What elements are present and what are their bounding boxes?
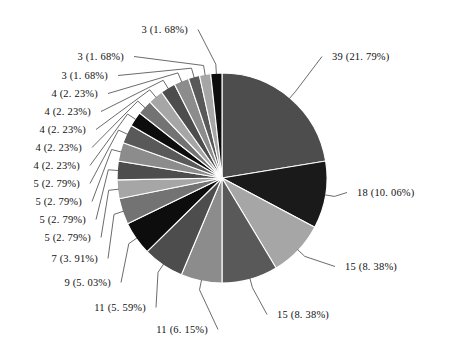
slice-label: 5 (2. 79%) xyxy=(33,178,80,190)
slice-label: 5 (2. 79%) xyxy=(44,232,91,244)
slice-label: 5 (2. 79%) xyxy=(35,196,82,208)
pie-slices-group xyxy=(117,73,327,283)
slice-label: 11 (6. 15%) xyxy=(156,324,208,336)
slice-label: 39 (21. 79%) xyxy=(332,51,390,63)
leader-line xyxy=(200,280,219,330)
leader-line xyxy=(156,264,164,307)
slice-label: 7 (3. 91%) xyxy=(51,253,98,265)
slice-label: 3 (1. 68%) xyxy=(77,51,124,63)
slice-label: 15 (8. 38%) xyxy=(345,261,397,273)
leader-line xyxy=(298,250,336,267)
slice-label: 4 (2. 23%) xyxy=(51,88,98,100)
slice-label: 3 (1. 68%) xyxy=(61,70,108,82)
pie-chart-figure: 39 (21. 79%)18 (10. 06%)15 (8. 38%)15 (8… xyxy=(0,0,452,355)
leader-line xyxy=(121,238,137,283)
slice-label: 9 (5. 03%) xyxy=(64,277,111,289)
leader-line xyxy=(118,68,194,78)
slice-label: 4 (2. 23%) xyxy=(35,142,82,154)
leader-line xyxy=(325,193,347,197)
slice-label: 11 (5. 59%) xyxy=(94,302,146,314)
slice-label: 5 (2. 79%) xyxy=(39,214,86,226)
leader-line xyxy=(96,170,118,220)
slice-label: 4 (2. 23%) xyxy=(33,160,80,172)
slice-label: 4 (2. 23%) xyxy=(39,124,86,136)
pie-slice xyxy=(222,73,326,178)
slice-label: 3 (1. 68%) xyxy=(141,24,188,36)
leader-line xyxy=(198,30,216,75)
leader-line xyxy=(289,57,322,99)
pie-chart-canvas: 39 (21. 79%)18 (10. 06%)15 (8. 38%)15 (8… xyxy=(0,0,452,355)
leader-line xyxy=(108,211,123,258)
leader-line xyxy=(250,278,267,314)
slice-label: 15 (8. 38%) xyxy=(277,309,329,321)
slice-label: 4 (2. 23%) xyxy=(44,106,91,118)
slice-label: 18 (10. 06%) xyxy=(357,187,415,199)
